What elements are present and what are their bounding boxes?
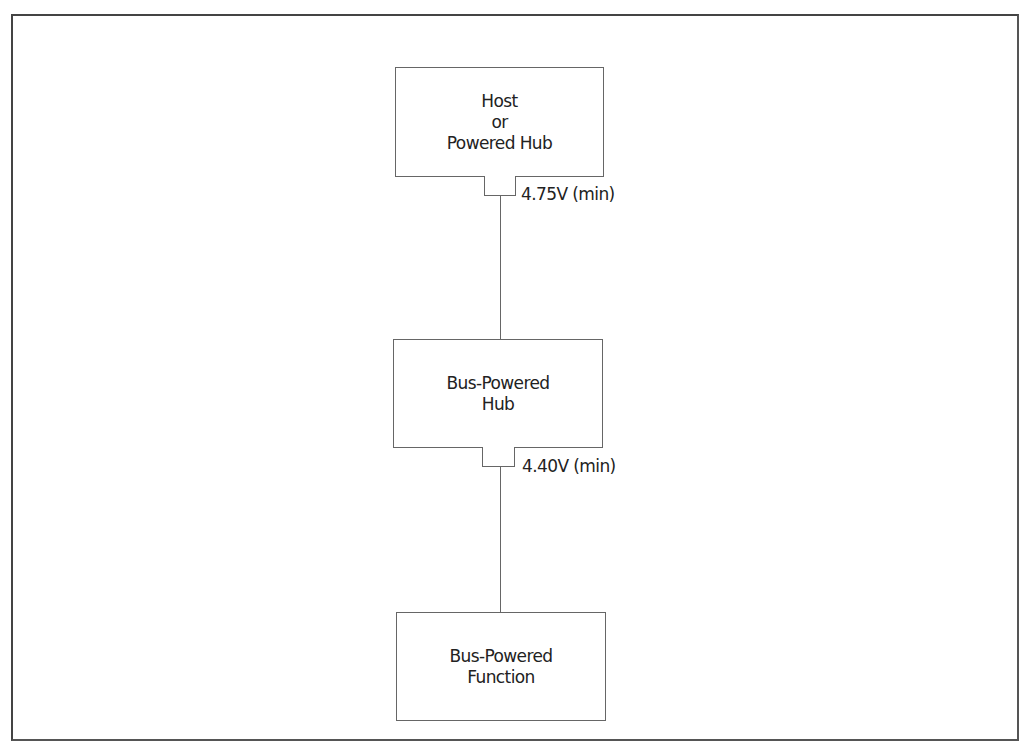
voltage-label: 4.75V (min): [521, 184, 615, 204]
node-label-line: Bus-Powered: [446, 373, 549, 394]
node-host-or-powered-hub: Host or Powered Hub: [395, 67, 604, 177]
port-connector-icon: [484, 176, 516, 196]
node-bus-powered-function: Bus-Powered Function: [396, 612, 606, 721]
node-bus-powered-hub: Bus-Powered Hub: [393, 339, 603, 448]
node-label-line: or: [491, 112, 507, 133]
cable-line: [500, 196, 501, 340]
port-connector-icon: [482, 447, 515, 467]
node-label-line: Hub: [482, 394, 515, 415]
node-label-line: Powered Hub: [447, 133, 552, 154]
node-label-line: Host: [481, 91, 517, 112]
node-label-line: Function: [467, 667, 535, 688]
cable-line: [500, 467, 501, 613]
node-label-line: Bus-Powered: [449, 646, 552, 667]
voltage-label: 4.40V (min): [522, 456, 616, 476]
